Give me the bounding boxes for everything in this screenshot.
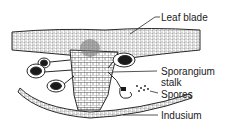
label-indusium: Indusium	[161, 110, 202, 121]
sporangium-left-low	[47, 76, 74, 92]
diagram-canvas: Leaf blade Sporangium stalk Spores Indus…	[0, 0, 233, 126]
spores	[136, 85, 149, 92]
label-leaf-blade: Leaf blade	[161, 12, 208, 23]
sporangium-left-mid	[27, 64, 72, 78]
receptacle	[70, 50, 118, 110]
label-sporangium: Sporangium	[161, 66, 215, 77]
label-spores: Spores	[161, 89, 193, 100]
label-stalk: stalk	[161, 77, 182, 88]
